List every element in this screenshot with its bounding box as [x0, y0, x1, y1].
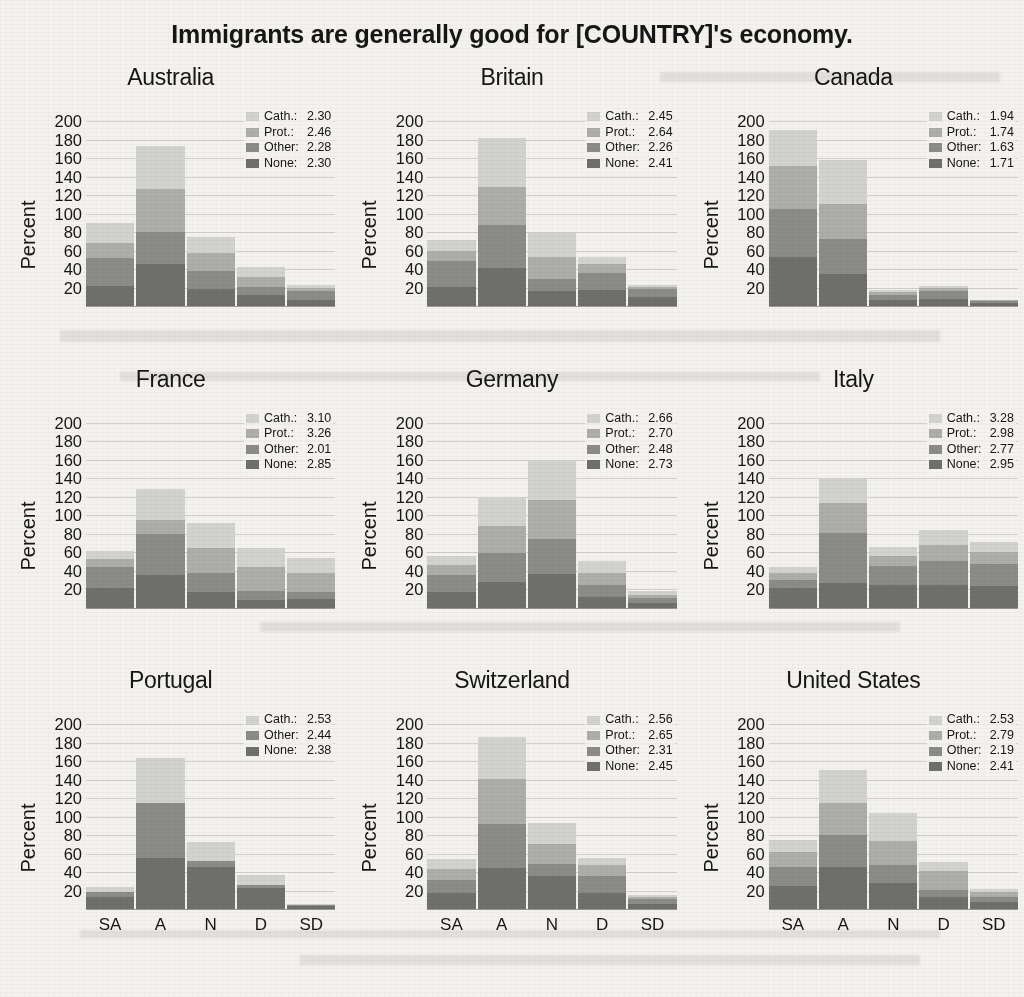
bar-sd[interactable]: [970, 542, 1018, 608]
bar-segment-cath: [427, 859, 475, 869]
bar-n[interactable]: [869, 547, 917, 608]
bar-a[interactable]: [136, 758, 184, 910]
bar-segment-other: [578, 273, 626, 291]
legend-label: Cath.:: [264, 712, 302, 728]
bar-sa[interactable]: [427, 240, 475, 306]
bar-d[interactable]: [237, 267, 285, 306]
x-axis-tick: D: [237, 915, 285, 935]
bar-d[interactable]: [578, 257, 626, 306]
bar-sd[interactable]: [628, 895, 676, 909]
bar-segment-prot: [578, 573, 626, 585]
legend: Cath.:2.30Prot.:2.46Other:2.28None:2.30: [244, 108, 333, 172]
y-axis-tick: 20: [746, 881, 764, 900]
bar-n[interactable]: [528, 460, 576, 608]
y-axis-tick: 160: [396, 450, 424, 469]
bar-d[interactable]: [919, 862, 967, 909]
bar-sa[interactable]: [769, 130, 817, 306]
legend-value: 2.56: [648, 712, 672, 728]
bar-segment-prot: [237, 277, 285, 286]
legend-label: Other:: [605, 140, 643, 156]
legend: Cath.:3.28Prot.:2.98Other:2.77None:2.95: [927, 410, 1016, 474]
bar-a[interactable]: [478, 737, 526, 909]
bar-sa[interactable]: [769, 567, 817, 608]
bar-n[interactable]: [528, 823, 576, 909]
bar-sa[interactable]: [86, 223, 134, 306]
bar-d[interactable]: [919, 286, 967, 306]
bar-segment-other: [869, 566, 917, 585]
y-axis-tick: 100: [396, 506, 424, 525]
bar-d[interactable]: [237, 548, 285, 608]
bar-sa[interactable]: [427, 859, 475, 910]
legend-value: 2.53: [307, 712, 331, 728]
bar-sd[interactable]: [287, 285, 335, 306]
bar-d[interactable]: [578, 561, 626, 607]
legend-item: Prot.:2.64: [587, 125, 672, 141]
bar-d[interactable]: [919, 530, 967, 608]
legend-label: Cath.:: [605, 411, 643, 427]
legend-item: Prot.:2.65: [587, 728, 672, 744]
legend-item: Prot.:2.70: [587, 426, 672, 442]
bar-d[interactable]: [578, 858, 626, 910]
bar-sa[interactable]: [427, 556, 475, 608]
x-axis-tick: N: [528, 915, 576, 935]
bar-a[interactable]: [819, 160, 867, 306]
legend-swatch-none: [929, 762, 942, 771]
bar-segment-prot: [427, 251, 475, 261]
bar-a[interactable]: [819, 770, 867, 910]
x-axis-line: [427, 306, 676, 307]
bar-a[interactable]: [136, 489, 184, 607]
bar-sd[interactable]: [970, 889, 1018, 909]
legend-item: Cath.:2.56: [587, 712, 672, 728]
legend-value: 2.46: [307, 125, 331, 141]
legend-value: 2.41: [648, 156, 672, 172]
panel-canada: CanadaPercent20018016014012010080604020C…: [683, 62, 1024, 364]
bar-a[interactable]: [478, 498, 526, 608]
legend-item: Prot.:2.79: [929, 728, 1014, 744]
y-axis-tick: 140: [737, 770, 765, 789]
y-axis-tick: 140: [737, 167, 765, 186]
bar-n[interactable]: [528, 233, 576, 306]
legend-label: Cath.:: [947, 712, 985, 728]
legend-swatch-cath: [587, 414, 600, 423]
legend: Cath.:3.10Prot.:3.26Other:2.01None:2.85: [244, 410, 333, 474]
bar-n[interactable]: [187, 237, 235, 306]
legend-value: 2.65: [648, 728, 672, 744]
bar-segment-cath: [528, 823, 576, 843]
legend-swatch-prot: [587, 429, 600, 438]
bar-n[interactable]: [187, 523, 235, 608]
y-axis-tick: 160: [396, 752, 424, 771]
bar-segment-cath: [919, 862, 967, 870]
legend-value: 2.98: [990, 426, 1014, 442]
bar-a[interactable]: [136, 146, 184, 306]
bar-segment-cath: [819, 770, 867, 803]
legend-item: None:2.85: [246, 457, 331, 473]
bar-segment-none: [869, 883, 917, 910]
bar-n[interactable]: [187, 842, 235, 909]
bar-segment-other: [478, 824, 526, 867]
bar-n[interactable]: [869, 813, 917, 909]
bar-sa[interactable]: [769, 840, 817, 909]
panel-title: Germany: [341, 366, 682, 393]
bar-segment-none: [427, 893, 475, 910]
legend-value: 2.73: [648, 457, 672, 473]
y-axis-tick: 120: [396, 789, 424, 808]
bar-sd[interactable]: [287, 558, 335, 608]
bar-sa[interactable]: [86, 551, 134, 607]
bar-sa[interactable]: [86, 887, 134, 909]
panel-italy: ItalyPercent20018016014012010080604020Ca…: [683, 364, 1024, 666]
bar-segment-prot: [427, 565, 475, 575]
bar-segment-prot: [287, 573, 335, 591]
bar-a[interactable]: [819, 478, 867, 607]
legend: Cath.:2.66Prot.:2.70Other:2.48None:2.73: [585, 410, 674, 474]
bar-sd[interactable]: [628, 285, 676, 306]
legend-swatch-none: [587, 159, 600, 168]
bar-segment-other: [919, 291, 967, 298]
panel-grid: AustraliaPercent200180160140120100806040…: [0, 62, 1024, 967]
bar-n[interactable]: [869, 290, 917, 306]
bar-sd[interactable]: [628, 591, 676, 608]
bar-a[interactable]: [478, 138, 526, 306]
bar-segment-none: [478, 268, 526, 306]
bar-d[interactable]: [237, 875, 285, 909]
legend-swatch-none: [246, 159, 259, 168]
legend-value: 1.74: [990, 125, 1014, 141]
